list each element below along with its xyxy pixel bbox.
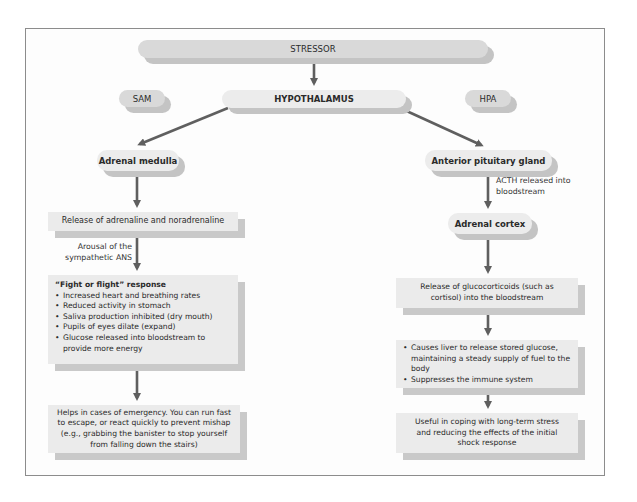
acth-label-line2: bloodstream	[496, 187, 596, 198]
arrow-hypothalamus-to-medulla	[140, 108, 228, 144]
hypothalamus-node: HYPOTHALAMUS	[222, 90, 406, 108]
glucocorticoids-box: Release of glucocorticoids (such as cort…	[396, 278, 578, 308]
release-adrenaline-box: Release of adrenaline and noradrenaline	[48, 212, 238, 231]
fight-item: Pupils of eyes dilate (expand)	[55, 322, 231, 333]
arousal-label-line2: sympathetic ANS	[60, 253, 132, 264]
adrenal-cortex-node: Adrenal cortex	[448, 213, 532, 234]
effects-list: Causes liver to release stored glucose, …	[403, 343, 571, 385]
hpa-outcome-box: Useful in coping with long-term stress a…	[396, 413, 578, 453]
sam-outcome-box: Helps in cases of emergency. You can run…	[48, 405, 240, 453]
arrow-hypothalamus-to-pituitary	[400, 108, 481, 145]
sam-label: SAM	[119, 90, 165, 107]
hpa-label: HPA	[465, 90, 511, 107]
effects-item: Suppresses the immune system	[403, 375, 571, 386]
anterior-pituitary-node: Anterior pituitary gland	[425, 150, 552, 171]
fight-item: Saliva production inhibited (dry mouth)	[55, 312, 231, 323]
acth-label-line1: ACTH released into	[496, 176, 596, 187]
arousal-label: Arousal of the sympathetic ANS	[60, 242, 132, 263]
hpa-effects-box: Causes liver to release stored glucose, …	[396, 340, 578, 388]
effects-item: Causes liver to release stored glucose, …	[403, 343, 571, 375]
fight-list: Increased heart and breathing rates Redu…	[55, 291, 231, 355]
acth-label: ACTH released into bloodstream	[496, 176, 596, 197]
fight-heading: “Fight or flight” response	[55, 280, 231, 291]
arousal-label-line1: Arousal of the	[60, 242, 132, 253]
adrenal-medulla-node: Adrenal medulla	[97, 150, 179, 171]
fight-item: Glucose released into bloodstream to pro…	[55, 333, 231, 354]
fight-item: Reduced activity in stomach	[55, 301, 231, 312]
fight-item: Increased heart and breathing rates	[55, 291, 231, 302]
stressor-node: STRESSOR	[138, 40, 488, 58]
fight-or-flight-box: “Fight or flight” response Increased hea…	[48, 275, 238, 364]
